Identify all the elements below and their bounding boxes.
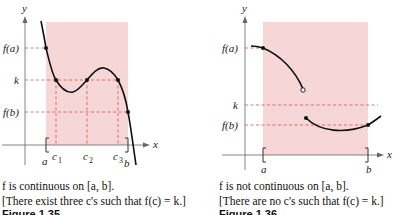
fa-label: f(a) (3, 42, 19, 55)
y-axis-label: y (241, 2, 247, 14)
k-label: k (233, 99, 239, 111)
c3-sub: 3 (119, 156, 123, 165)
a-label: a (42, 155, 48, 167)
figure-1-35-label: Figure 1.35 (2, 208, 60, 215)
y-axis-arrow-icon (23, 16, 28, 23)
k-label: k (14, 74, 20, 86)
a-label: a (261, 163, 267, 175)
interval-shading (263, 22, 368, 155)
c1-sub: 1 (58, 156, 62, 165)
fb-label: f(b) (222, 119, 238, 132)
point-fb (126, 110, 130, 114)
x-axis-label: x (152, 138, 158, 150)
point-fa (44, 46, 48, 50)
x-axis-label: x (386, 148, 392, 160)
c2-sub: 2 (89, 156, 93, 165)
figure-1-35-caption-line2: [There exist three c's such that f(c) = … (2, 194, 186, 208)
x-axis-arrow-icon (377, 153, 384, 158)
fa-label: f(a) (222, 42, 238, 55)
fb-label: f(b) (3, 106, 19, 119)
y-axis-arrow-icon (243, 16, 248, 23)
point-fa (261, 46, 265, 50)
c1-label: c (52, 150, 57, 162)
figure-1-36-label: Figure 1.36 (219, 208, 277, 215)
open-point (301, 88, 305, 92)
point-fb (366, 123, 370, 127)
figure-1-36-graph: y x f(a) k f(b) a b (222, 2, 392, 175)
c3-label: c (113, 150, 118, 162)
point-c1 (54, 78, 58, 82)
x-axis-arrow-icon (143, 143, 150, 148)
figure-1-35-caption-line1: f is continuous on [a, b]. (2, 179, 114, 193)
y-axis-label: y (21, 2, 27, 14)
figure-1-36-caption-line1: f is not continuous on [a, b]. (219, 179, 349, 193)
b-label: b (124, 157, 130, 169)
c2-label: c (83, 150, 88, 162)
closed-point (304, 116, 308, 120)
point-c3 (116, 78, 120, 82)
figure-1-36-caption-line2: [There are no c's such that f(c) = k.] (219, 194, 384, 208)
b-label: b (366, 163, 372, 175)
figure-1-35-graph: y x f(a) k f(b) a c 1 c 2 c 3 b (2, 2, 158, 169)
point-c2 (85, 78, 89, 82)
